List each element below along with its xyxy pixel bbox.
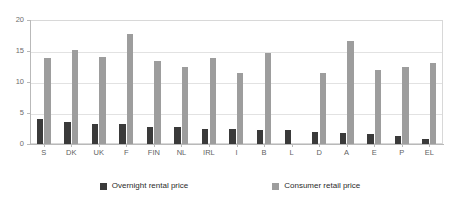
bar-group [305,20,333,144]
x-axis-tick-mark [264,144,265,147]
bar-overnight-rental-price [119,124,125,144]
x-axis-tick-label: I [223,149,251,157]
y-axis-tick-label: 15 [2,47,24,55]
x-axis-tick-mark [99,144,100,147]
bar-group [113,20,141,144]
bar-group [195,20,223,144]
bar-group [85,20,113,144]
bar-overnight-rental-price [367,134,373,144]
bar-consumer-retail-price [237,73,243,144]
x-axis-tick-mark [154,144,155,147]
bar-consumer-retail-price [182,67,188,144]
x-axis-tick-label: B [250,149,278,157]
chart-legend: Overnight rental priceConsumer retail pr… [0,182,460,190]
x-axis-tick-label: IRL [195,149,223,157]
bar-consumer-retail-price [127,34,133,144]
bar-group [278,20,306,144]
bar-overnight-rental-price [92,124,98,144]
bar-consumer-retail-price [99,57,105,144]
bar-chart: 05101520 SDKUKFFINNLIRLIBLDAEPEL Overnig… [0,0,460,212]
legend-label: Consumer retail price [284,182,360,190]
x-axis-tick-label: DK [58,149,86,157]
x-axis-tick-label: FIN [140,149,168,157]
bar-consumer-retail-price [430,63,436,144]
bar-overnight-rental-price [285,130,291,144]
x-axis-tick-mark [44,144,45,147]
x-axis-tick-label: EL [415,149,443,157]
y-axis-tick-label: 20 [2,16,24,24]
bar-group [250,20,278,144]
bar-consumer-retail-price [375,70,381,144]
bar-group [388,20,416,144]
bar-consumer-retail-price [210,58,216,144]
x-axis-tick-label: S [30,149,58,157]
bar-overnight-rental-price [202,129,208,145]
x-axis-tick-mark [237,144,238,147]
y-axis-tick-label: 0 [2,140,24,148]
x-axis-tick-mark [374,144,375,147]
bar-consumer-retail-price [265,53,271,144]
bar-overnight-rental-price [395,136,401,144]
x-axis-tick-label: UK [85,149,113,157]
bar-overnight-rental-price [37,119,43,144]
x-axis-tick-label: E [360,149,388,157]
bar-overnight-rental-price [64,122,70,144]
x-axis-tick-mark [292,144,293,147]
y-axis-tick-label: 5 [2,109,24,117]
x-axis-tick-mark [71,144,72,147]
bar-overnight-rental-price [147,127,153,144]
bar-group [30,20,58,144]
bar-consumer-retail-price [154,61,160,144]
legend-label: Overnight rental price [112,182,188,190]
bar-group [58,20,86,144]
legend-entry: Overnight rental price [100,182,188,190]
x-axis-tick-label: A [333,149,361,157]
x-axis-tick-label: D [305,149,333,157]
x-axis-tick-label: NL [168,149,196,157]
x-axis-tick-mark [209,144,210,147]
bar-consumer-retail-price [44,58,50,144]
bar-group [415,20,443,144]
bar-group [140,20,168,144]
bar-overnight-rental-price [312,132,318,144]
bar-overnight-rental-price [340,133,346,144]
bar-group [333,20,361,144]
bar-overnight-rental-price [174,127,180,144]
x-axis-tick-mark [126,144,127,147]
y-axis-tick-label: 10 [2,78,24,86]
x-axis-tick-label: F [113,149,141,157]
bar-consumer-retail-price [72,50,78,144]
bar-consumer-retail-price [347,41,353,144]
bar-consumer-retail-price [320,73,326,144]
bar-group [223,20,251,144]
x-axis-tick-label: L [278,149,306,157]
bar-group [168,20,196,144]
bar-consumer-retail-price [402,67,408,144]
legend-entry: Consumer retail price [272,182,360,190]
x-axis-tick-label: P [388,149,416,157]
bar-group [360,20,388,144]
x-axis-tick-mark [319,144,320,147]
square-swatch-grey-icon [272,183,279,190]
square-swatch-dark-icon [100,183,107,190]
y-axis-tick-mark [27,144,30,145]
x-axis-tick-mark [181,144,182,147]
bar-overnight-rental-price [229,129,235,144]
bar-overnight-rental-price [422,139,428,144]
bars-layer [30,20,443,144]
x-axis-tick-mark [347,144,348,147]
x-axis-tick-mark [429,144,430,147]
x-axis-tick-mark [402,144,403,147]
bar-overnight-rental-price [257,130,263,144]
